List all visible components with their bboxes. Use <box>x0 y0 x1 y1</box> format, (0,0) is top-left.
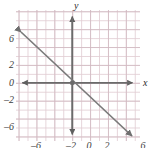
x-axis-label: x <box>143 78 147 88</box>
origin-point <box>70 81 74 85</box>
plotted-line <box>21 32 132 136</box>
coordinate-plane-figure: 6 2 0 –2 –6 –6 –2 0 2 6 x y <box>0 0 153 148</box>
y-tick-label-neg-2: –2 <box>0 95 14 105</box>
x-tick-label-neg-6: –6 <box>29 141 43 148</box>
x-tick-label-0: 0 <box>82 141 96 148</box>
x-tick-label-2: 2 <box>100 141 114 148</box>
x-tick-label-neg-2: –2 <box>64 141 78 148</box>
axes-and-line-overlay <box>0 0 153 148</box>
x-tick-label-6: 6 <box>136 141 150 148</box>
y-tick-label-neg-6: –6 <box>0 122 14 132</box>
y-tick-label-2: 2 <box>0 60 14 70</box>
y-tick-label-6: 6 <box>0 34 14 44</box>
y-axis-label: y <box>74 1 78 11</box>
y-tick-label-0: 0 <box>0 78 14 88</box>
